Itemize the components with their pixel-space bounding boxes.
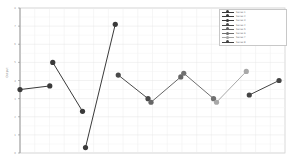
legend-label: Series 5	[236, 28, 246, 31]
legend-label: Series 1	[236, 11, 246, 14]
data-point	[181, 71, 186, 76]
data-point	[83, 145, 88, 150]
y-tick-label: 4	[14, 80, 16, 83]
legend-swatch-icon	[222, 20, 234, 21]
y-tick-label: 1	[14, 134, 16, 137]
data-point	[148, 100, 153, 105]
legend-swatch-icon	[222, 29, 234, 30]
data-point	[17, 87, 22, 92]
y-axis-label: Output	[5, 66, 9, 77]
legend-label: Series 7	[236, 36, 246, 39]
y-tick-label: 3	[14, 98, 16, 101]
data-point	[50, 60, 55, 65]
data-point	[113, 22, 118, 27]
data-point	[247, 92, 252, 97]
y-tick-label: 0	[14, 152, 16, 155]
chart-container: 876543210Output Series 1Series 2Series 3…	[0, 0, 293, 166]
chart-legend: Series 1Series 2Series 3Series 4Series 5…	[219, 9, 287, 46]
y-tick-label: 2	[14, 116, 16, 119]
legend-swatch-icon	[222, 12, 234, 13]
y-tick-label: 7	[14, 25, 16, 28]
legend-swatch-icon	[222, 37, 234, 38]
data-point	[116, 72, 121, 77]
data-point	[214, 100, 219, 105]
legend-swatch-icon	[222, 16, 234, 17]
legend-label: Series 8	[236, 41, 246, 44]
legend-label: Series 4	[236, 24, 246, 27]
legend-swatch-icon	[222, 25, 234, 26]
data-point	[47, 83, 52, 88]
legend-label: Series 3	[236, 19, 246, 22]
legend-label: Series 2	[236, 15, 246, 18]
y-tick-label: 8	[14, 7, 16, 10]
legend-swatch-icon	[222, 33, 234, 34]
data-point	[276, 78, 281, 83]
data-point	[80, 109, 85, 114]
y-tick-label: 5	[14, 61, 16, 64]
data-point	[244, 69, 249, 74]
legend-swatch-icon	[222, 42, 234, 43]
legend-item: Series 8	[220, 40, 286, 44]
legend-label: Series 6	[236, 32, 246, 35]
y-tick-label: 6	[14, 43, 16, 46]
